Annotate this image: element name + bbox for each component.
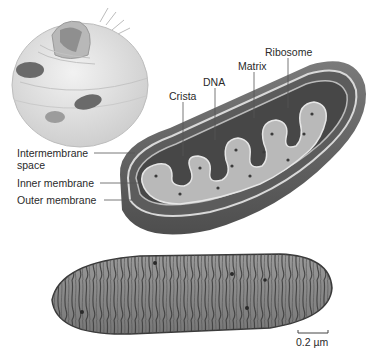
electron-micrograph-image [52,254,332,334]
label-intermembrane-space-line1: Intermembrane [17,147,88,159]
scale-bar-label: 0.2 µm [296,336,328,348]
mitochondrion-cutaway-illustration [120,61,366,234]
label-dna: DNA [203,76,225,88]
label-ribosome: Ribosome [265,46,312,58]
label-matrix: Matrix [238,60,267,72]
mitochondrion-diagram: Ribosome Matrix DNA Crista Intermembrane… [0,0,384,358]
cell-cutaway-illustration [12,8,148,147]
label-inner-membrane: Inner membrane [17,177,94,189]
label-outer-membrane: Outer membrane [17,194,96,206]
scale-bar [298,330,328,333]
label-crista: Crista [169,90,196,102]
label-intermembrane-space-line2: space [17,159,45,171]
